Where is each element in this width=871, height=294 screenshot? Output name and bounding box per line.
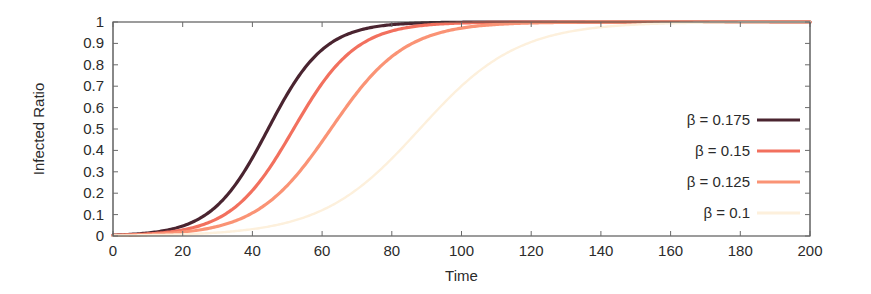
x-tick-label: 100 bbox=[449, 242, 474, 259]
y-tick-label: 0.3 bbox=[83, 163, 104, 180]
infected-ratio-line-chart: 02040608010012014016018020000.10.20.30.4… bbox=[0, 0, 871, 294]
x-tick-label: 140 bbox=[588, 242, 613, 259]
legend-label-1: β = 0.15 bbox=[695, 142, 750, 159]
x-tick-label: 180 bbox=[728, 242, 753, 259]
y-tick-label: 0 bbox=[96, 227, 104, 244]
x-tick-label: 120 bbox=[519, 242, 544, 259]
x-tick-label: 40 bbox=[244, 242, 261, 259]
chart-figure: 02040608010012014016018020000.10.20.30.4… bbox=[0, 0, 871, 294]
y-axis-title: Infected Ratio bbox=[30, 83, 47, 176]
x-axis-title: Time bbox=[445, 267, 478, 284]
x-tick-label: 80 bbox=[383, 242, 400, 259]
legend-label-3: β = 0.1 bbox=[703, 204, 750, 221]
y-tick-label: 0.2 bbox=[83, 184, 104, 201]
x-tick-label: 160 bbox=[658, 242, 683, 259]
y-tick-label: 0.6 bbox=[83, 99, 104, 116]
y-tick-label: 0.8 bbox=[83, 56, 104, 73]
y-tick-label: 0.7 bbox=[83, 77, 104, 94]
y-tick-label: 1 bbox=[96, 13, 104, 30]
x-tick-label: 0 bbox=[109, 242, 117, 259]
y-tick-label: 0.9 bbox=[83, 34, 104, 51]
y-tick-label: 0.5 bbox=[83, 120, 104, 137]
x-tick-label: 20 bbox=[174, 242, 191, 259]
x-tick-label: 200 bbox=[797, 242, 822, 259]
y-tick-label: 0.1 bbox=[83, 206, 104, 223]
x-tick-label: 60 bbox=[314, 242, 331, 259]
chart-legend: β = 0.175β = 0.15β = 0.125β = 0.1 bbox=[687, 111, 800, 221]
legend-label-0: β = 0.175 bbox=[687, 111, 750, 128]
legend-label-2: β = 0.125 bbox=[687, 173, 750, 190]
y-tick-label: 0.4 bbox=[83, 141, 104, 158]
